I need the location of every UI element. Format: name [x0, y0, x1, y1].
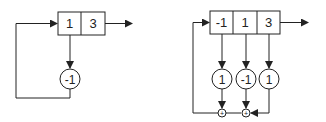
adder-symbol: + — [244, 110, 248, 117]
right-feedback-register: -1 1 3 1 -1 1 + — [193, 11, 308, 117]
multiplier-node: -1 — [60, 69, 80, 89]
left-feedback-register: 1 3 -1 — [16, 12, 132, 98]
register-cell: 3 — [265, 15, 272, 30]
multiplier-node: 1 — [212, 69, 232, 89]
multiplier-value: -1 — [65, 73, 76, 87]
multiplier-value: 1 — [219, 73, 226, 87]
right-register: -1 1 3 — [210, 11, 280, 34]
register-cell: 1 — [66, 16, 73, 31]
feedback-path — [193, 23, 218, 114]
multiplier-value: 1 — [266, 73, 273, 87]
adder-node: + — [242, 109, 250, 117]
multiplier-node: 1 — [259, 69, 279, 89]
register-cell: -1 — [216, 15, 228, 30]
register-cell: 1 — [241, 15, 248, 30]
left-register: 1 3 — [58, 12, 105, 35]
multiplier-value: -1 — [241, 73, 252, 87]
diagram-canvas: 1 3 -1 -1 1 3 1 — [0, 0, 326, 122]
adder-symbol: + — [220, 110, 224, 117]
to-adder-arrow — [251, 89, 269, 113]
multiplier-node: -1 — [236, 69, 256, 89]
adder-node: + — [218, 109, 226, 117]
register-cell: 3 — [89, 16, 96, 31]
